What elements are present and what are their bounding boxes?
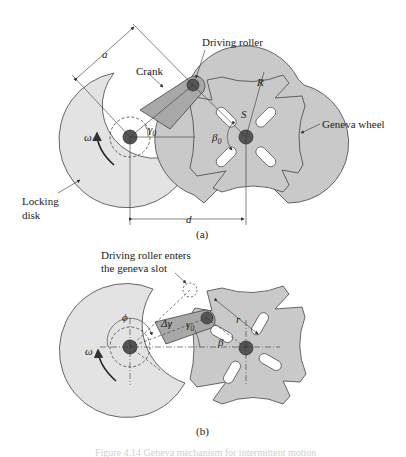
crank-label: Crank (136, 65, 163, 77)
symbol-omega-b: ω (85, 345, 93, 357)
roller-enters-label-1: Driving roller enters (101, 249, 191, 261)
figure-b: Driving roller enters the geneva slot ϕ … (59, 249, 306, 438)
symbol-delta-gamma: Δγ (160, 317, 172, 329)
symbol-beta: β (217, 336, 224, 348)
geneva-mechanism-diagram: Driving roller Crank Geneva wheel Lockin… (0, 0, 406, 457)
figure-caption: Figure 4.14 Geneva mechanism for intermi… (95, 447, 316, 457)
symbol-omega-a: ω (84, 131, 92, 143)
locking-disk-b (59, 283, 185, 417)
driving-roller-label: Driving roller (202, 36, 263, 48)
symbol-phi: ϕ (122, 311, 128, 323)
symbol-S: S (241, 108, 247, 120)
symbol-d: d (186, 213, 192, 225)
symbol-r: r (236, 313, 241, 325)
symbol-a: a (102, 48, 108, 60)
symbol-gamma0: γ0 (148, 123, 156, 138)
caption-b: (b) (196, 425, 209, 438)
locking-disk-label-1: Locking (22, 195, 59, 207)
caption-a: (a) (196, 228, 209, 241)
figure-a: Driving roller Crank Geneva wheel Lockin… (22, 24, 385, 241)
geneva-wheel-label: Geneva wheel (322, 118, 385, 130)
locking-disk-label-2: disk (22, 209, 41, 221)
roller-enters-label-2: the geneva slot (101, 262, 167, 274)
symbol-R: R (256, 76, 264, 88)
